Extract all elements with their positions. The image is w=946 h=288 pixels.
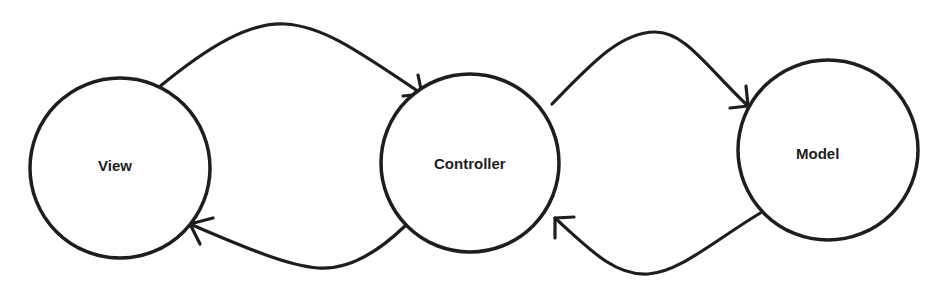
edge-line — [552, 32, 748, 106]
nodes: ViewControllerModel — [30, 60, 918, 258]
edge-line — [158, 24, 422, 94]
edge-controller-to-model — [552, 32, 748, 108]
node-model: Model — [738, 60, 918, 240]
node-controller: Controller — [381, 74, 559, 252]
edge-model-to-controller — [555, 212, 762, 274]
edge-line — [555, 212, 762, 274]
edge-view-to-controller — [158, 24, 422, 96]
mvc-diagram: ViewControllerModel — [0, 0, 946, 288]
node-label: Model — [796, 145, 839, 162]
node-view: View — [30, 78, 210, 258]
edge-controller-to-view — [190, 218, 405, 268]
edge-line — [190, 224, 405, 268]
node-label: Controller — [434, 155, 506, 172]
node-label: View — [98, 157, 132, 174]
